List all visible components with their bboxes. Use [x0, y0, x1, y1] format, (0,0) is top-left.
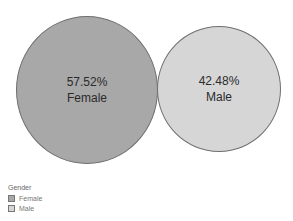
bubble-female: 57.52% Female — [16, 16, 158, 164]
bubble-male-percent: 42.48% — [199, 73, 240, 89]
bubble-male: 42.48% Male — [157, 26, 281, 152]
legend-label-male: Male — [19, 205, 34, 212]
legend-label-female: Female — [19, 195, 42, 202]
legend-swatch-female — [8, 195, 15, 202]
legend: Gender Female Male — [8, 184, 42, 213]
bubble-female-percent: 57.52% — [67, 74, 108, 90]
legend-item-male[interactable]: Male — [8, 203, 42, 213]
legend-title: Gender — [8, 184, 42, 191]
bubble-female-label: Female — [67, 90, 107, 106]
legend-item-female[interactable]: Female — [8, 193, 42, 203]
legend-swatch-male — [8, 205, 15, 212]
bubble-male-label: Male — [206, 89, 232, 105]
